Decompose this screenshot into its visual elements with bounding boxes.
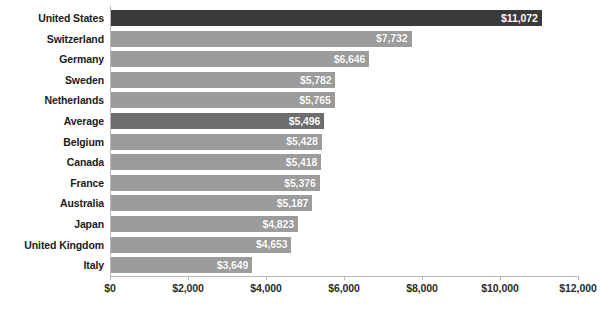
bar[interactable]: $5,496 — [110, 113, 324, 129]
bar[interactable]: $11,072 — [110, 10, 542, 26]
bar-value-label: $5,782 — [300, 75, 332, 86]
bar-row: Switzerland$7,732 — [0, 29, 616, 50]
tick-mark — [110, 276, 111, 280]
tick-mark — [266, 276, 267, 280]
bar-row: Germany$6,646 — [0, 49, 616, 70]
category-label: Netherlands — [0, 95, 104, 106]
bar-row: Belgium$5,428 — [0, 132, 616, 153]
tick-mark — [500, 276, 501, 280]
tick-mark — [344, 276, 345, 280]
tick-label: $0 — [104, 282, 115, 294]
category-label: France — [0, 178, 104, 189]
bar-row: Sweden$5,782 — [0, 70, 616, 91]
category-label: Average — [0, 116, 104, 127]
tick-label: $4,000 — [250, 282, 282, 294]
bar-track: $5,782 — [110, 72, 578, 88]
category-label: Belgium — [0, 137, 104, 148]
bar-rows: United States$11,072Switzerland$7,732Ger… — [0, 8, 616, 276]
tick-mark — [188, 276, 189, 280]
bar[interactable]: $5,376 — [110, 175, 320, 191]
bar-row: Canada$5,418 — [0, 152, 616, 173]
bar[interactable]: $5,428 — [110, 134, 322, 150]
tick-label: $10,000 — [481, 282, 518, 294]
bar-row: Italy$3,649 — [0, 255, 616, 276]
bar-track: $3,649 — [110, 257, 578, 273]
bar[interactable]: $5,782 — [110, 72, 335, 88]
tick-mark — [578, 276, 579, 280]
bar[interactable]: $5,418 — [110, 154, 321, 170]
bar-row: United Kingdom$4,653 — [0, 235, 616, 256]
bar-track: $4,823 — [110, 216, 578, 232]
tick-label: $2,000 — [172, 282, 204, 294]
bar-value-label: $5,187 — [277, 198, 309, 209]
bar-track: $11,072 — [110, 10, 578, 26]
bar-value-label: $4,653 — [256, 239, 288, 250]
bar[interactable]: $4,653 — [110, 237, 291, 253]
bar-row: France$5,376 — [0, 173, 616, 194]
bar-track: $5,418 — [110, 154, 578, 170]
x-axis-ticks: $0$2,000$4,000$6,000$8,000$10,000$12,000 — [0, 276, 616, 302]
plot-area: United States$11,072Switzerland$7,732Ger… — [0, 0, 616, 288]
bar-track: $4,653 — [110, 237, 578, 253]
bar-chart: United States$11,072Switzerland$7,732Ger… — [0, 0, 616, 315]
tick-label: $8,000 — [406, 282, 438, 294]
category-label: Germany — [0, 54, 104, 65]
bar-row: Japan$4,823 — [0, 214, 616, 235]
bar-row: United States$11,072 — [0, 8, 616, 29]
bar-row: Australia$5,187 — [0, 193, 616, 214]
bar[interactable]: $5,187 — [110, 195, 312, 211]
bar-value-label: $5,428 — [286, 136, 318, 147]
bar-value-label: $5,496 — [289, 116, 321, 127]
bar-track: $7,732 — [110, 31, 578, 47]
bar-value-label: $5,376 — [284, 178, 316, 189]
category-label: Switzerland — [0, 34, 104, 45]
bar-row: Average$5,496 — [0, 111, 616, 132]
tick-mark — [422, 276, 423, 280]
bar-track: $5,496 — [110, 113, 578, 129]
bar-track: $6,646 — [110, 51, 578, 67]
bar[interactable]: $7,732 — [110, 31, 412, 47]
category-label: United Kingdom — [0, 240, 104, 251]
bar-value-label: $7,732 — [376, 33, 408, 44]
bar-value-label: $6,646 — [334, 54, 366, 65]
category-label: Japan — [0, 219, 104, 230]
bar[interactable]: $6,646 — [110, 51, 369, 67]
category-label: Sweden — [0, 75, 104, 86]
y-axis-spine — [110, 6, 111, 277]
bar-value-label: $4,823 — [263, 219, 295, 230]
tick-label: $6,000 — [328, 282, 360, 294]
bar[interactable]: $3,649 — [110, 257, 252, 273]
category-label: Australia — [0, 198, 104, 209]
bar-track: $5,187 — [110, 195, 578, 211]
bar[interactable]: $4,823 — [110, 216, 298, 232]
bar-row: Netherlands$5,765 — [0, 90, 616, 111]
category-label: Italy — [0, 260, 104, 271]
bar-value-label: $3,649 — [217, 260, 249, 271]
category-label: United States — [0, 13, 104, 24]
bar-value-label: $5,418 — [286, 157, 318, 168]
bar-track: $5,376 — [110, 175, 578, 191]
bar[interactable]: $5,765 — [110, 92, 335, 108]
bar-track: $5,428 — [110, 134, 578, 150]
bar-value-label: $5,765 — [299, 95, 331, 106]
bar-track: $5,765 — [110, 92, 578, 108]
bar-value-label: $11,072 — [501, 13, 538, 24]
category-label: Canada — [0, 157, 104, 168]
tick-label: $12,000 — [559, 282, 596, 294]
